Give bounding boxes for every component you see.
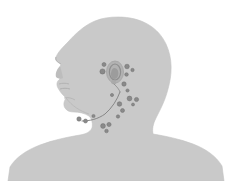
lymph-node-occipital-2 bbox=[126, 89, 129, 92]
lymph-node-preauricular-2 bbox=[102, 63, 106, 67]
figure-root: Head and neck lymph node anatomical illu… bbox=[0, 0, 232, 181]
lymph-node-submandibular-2 bbox=[84, 119, 88, 123]
lymph-node-supraclavicular-1 bbox=[101, 124, 106, 129]
lymph-node-preauricular-1 bbox=[100, 69, 105, 74]
head-neck-shoulders-shape bbox=[8, 17, 224, 181]
lymph-node-postauricular-2 bbox=[131, 68, 134, 71]
lymph-node-postauricular-3 bbox=[125, 73, 129, 77]
lymph-node-posterior-cervical-2 bbox=[134, 97, 138, 101]
lymph-node-supraclavicular-3 bbox=[105, 129, 109, 133]
lymph-node-postauricular-1 bbox=[125, 64, 130, 69]
lymph-node-tonsillar-1 bbox=[110, 93, 113, 96]
lymph-node-supraclavicular-2 bbox=[107, 122, 111, 126]
body-silhouette bbox=[8, 17, 224, 181]
lymph-node-occipital-1 bbox=[122, 82, 126, 86]
lymph-node-posterior-cervical-3 bbox=[132, 103, 135, 106]
lymph-node-deep-cervical-1 bbox=[116, 115, 119, 118]
lymph-node-posterior-cervical-1 bbox=[127, 96, 132, 101]
anatomy-illustration: Head and neck lymph node anatomical illu… bbox=[0, 0, 232, 181]
lymph-node-submandibular-1 bbox=[77, 117, 81, 121]
lymph-node-submental-1 bbox=[92, 114, 95, 117]
lymph-node-superficial-cervical-2 bbox=[121, 109, 125, 113]
lymph-node-superficial-cervical-1 bbox=[117, 102, 122, 107]
